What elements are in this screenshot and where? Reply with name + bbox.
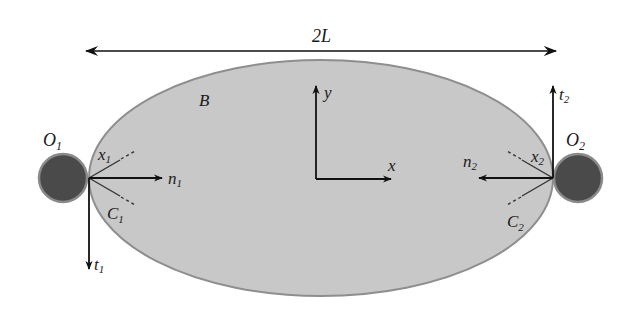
t1-label: t1 xyxy=(94,255,104,275)
length-label: 2L xyxy=(312,26,331,46)
finger-o1-circle xyxy=(39,154,87,202)
finger-o2-label: O2 xyxy=(566,130,585,153)
y-axis-label: y xyxy=(322,83,332,102)
finger-o1-label: O1 xyxy=(43,130,62,153)
grasp-diagram: 2L B y x O1 x1 C1 n1 t1 O2 x2 C2 n2 t2 xyxy=(0,0,633,312)
t2-label: t2 xyxy=(559,85,570,105)
body-label: B xyxy=(199,91,210,110)
x-axis-label: x xyxy=(387,156,396,175)
finger-o2-circle xyxy=(554,154,602,202)
